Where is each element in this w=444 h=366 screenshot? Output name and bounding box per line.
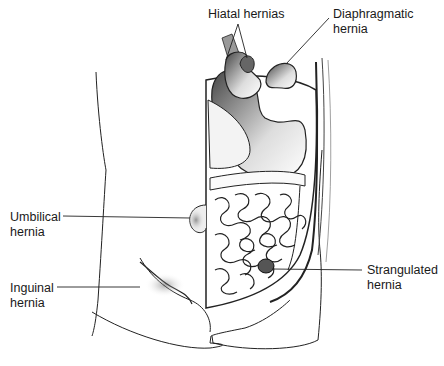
inguinal-bulge	[145, 273, 185, 297]
abdominal-cutaway	[187, 58, 331, 308]
strangulated-loop	[258, 259, 274, 273]
diaphragmatic-hernia-sac	[266, 63, 296, 88]
label-umbilical-hernia: Umbilical hernia	[10, 210, 61, 240]
label-diaphragmatic-hernia: Diaphragmatic hernia	[333, 7, 414, 37]
label-strangulated-hernia: Strangulated hernia	[367, 263, 438, 293]
anatomy-illustration	[0, 0, 444, 366]
hernia-diagram: Hiatal hernias Diaphragmatic hernia Umbi…	[0, 0, 444, 366]
hiatal-hernia-sacs	[222, 34, 261, 98]
label-hiatal-hernias: Hiatal hernias	[208, 7, 284, 22]
label-inguinal-hernia: Inguinal hernia	[10, 281, 54, 311]
